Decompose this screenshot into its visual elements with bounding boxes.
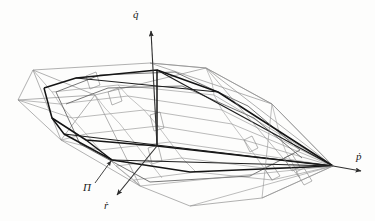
- plane-label-pi: Π: [83, 182, 91, 193]
- figure-canvas: q̇ ṗ ṙ Π: [0, 0, 375, 221]
- axis-label-r-dot: ṙ: [104, 200, 108, 211]
- axis-r-dot: [117, 146, 157, 195]
- axis-label-p-dot: ṗ: [356, 151, 362, 162]
- polytope-wireframe: [0, 0, 375, 221]
- axis-label-q-dot: q̇: [133, 9, 139, 20]
- highlight-facet-polygon: [44, 70, 333, 166]
- axis-p-dot: [333, 166, 361, 171]
